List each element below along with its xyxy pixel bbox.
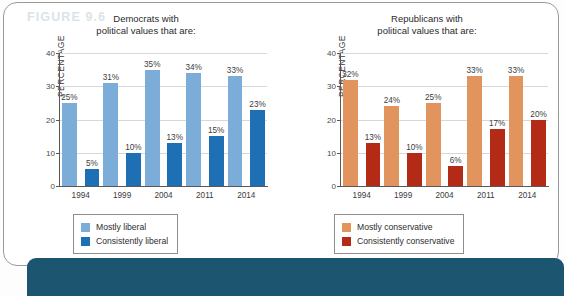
plot-area-republicans: PERCENTAGE 01020304032%13%199424%10%1999… bbox=[341, 53, 548, 186]
bar-value-label: 33% bbox=[466, 66, 482, 75]
bar-value-label: 6% bbox=[450, 156, 462, 165]
x-axis-tick-1999: 1999 bbox=[113, 191, 131, 200]
bar-value-label: 10% bbox=[406, 143, 422, 152]
bar-republicans-1994-consistently[interactable]: 13% bbox=[366, 143, 381, 186]
legend-swatch-mostly-conservative bbox=[342, 223, 351, 232]
bar-group: 31%10%1999 bbox=[101, 53, 142, 186]
bar-value-label: 13% bbox=[365, 133, 381, 142]
legend-item: Consistently liberal bbox=[81, 234, 168, 248]
bar-group: 32%13%1994 bbox=[341, 53, 382, 186]
bar-value-label: 20% bbox=[530, 110, 546, 119]
chart-title-line1: Democrats with bbox=[113, 13, 178, 24]
plot-area-democrats: PERCENTAGE 01020304025%5%199431%10%19993… bbox=[60, 53, 267, 186]
bar-group: 25%6%2004 bbox=[424, 53, 465, 186]
bar-value-label: 13% bbox=[167, 133, 183, 142]
bar-value-label: 5% bbox=[86, 159, 98, 168]
bar-democrats-2014-consistently[interactable]: 23% bbox=[250, 110, 265, 186]
bar-value-label: 24% bbox=[384, 96, 400, 105]
y-axis-tick: 0 bbox=[51, 182, 55, 191]
figure-card: Democrats with political values that are… bbox=[3, 2, 559, 266]
bar-group: 25%5%1994 bbox=[60, 53, 101, 186]
figure-banner bbox=[27, 258, 564, 296]
bar-value-label: 31% bbox=[103, 73, 119, 82]
x-axis-tick-2014: 2014 bbox=[518, 191, 536, 200]
chart-panel-republicans: Republicans with political values that a… bbox=[288, 9, 564, 261]
bar-value-label: 10% bbox=[125, 143, 141, 152]
bar-democrats-1999-mostly[interactable]: 31% bbox=[103, 83, 118, 186]
bar-group: 24%10%1999 bbox=[382, 53, 423, 186]
y-axis-line bbox=[340, 53, 341, 186]
bar-value-label: 35% bbox=[144, 60, 160, 69]
chart-title-line2: political values that are: bbox=[7, 25, 285, 37]
bar-value-label: 25% bbox=[425, 93, 441, 102]
bar-democrats-2014-mostly[interactable]: 33% bbox=[228, 76, 243, 186]
y-axis-tick: 30 bbox=[327, 82, 336, 91]
x-axis-tick-1999: 1999 bbox=[394, 191, 412, 200]
y-axis-tick: 40 bbox=[46, 49, 55, 58]
chart-title-republicans: Republicans with political values that a… bbox=[288, 13, 564, 37]
y-axis-tick: 10 bbox=[46, 148, 55, 157]
bar-value-label: 33% bbox=[508, 66, 524, 75]
bar-value-label: 23% bbox=[249, 100, 265, 109]
x-axis-tick-2014: 2014 bbox=[237, 191, 255, 200]
bar-republicans-2014-consistently[interactable]: 20% bbox=[531, 120, 546, 187]
bar-value-label: 34% bbox=[185, 63, 201, 72]
bar-value-label: 17% bbox=[489, 119, 505, 128]
bar-democrats-2011-mostly[interactable]: 34% bbox=[186, 73, 201, 186]
y-axis-tick: 20 bbox=[46, 115, 55, 124]
bar-group: 34%15%2011 bbox=[184, 53, 225, 186]
legend-item: Mostly liberal bbox=[81, 220, 168, 234]
bar-republicans-1999-consistently[interactable]: 10% bbox=[407, 153, 422, 186]
y-axis-tick: 10 bbox=[327, 148, 336, 157]
bar-republicans-1999-mostly[interactable]: 24% bbox=[384, 106, 399, 186]
bar-republicans-2014-mostly[interactable]: 33% bbox=[509, 76, 524, 186]
bar-value-label: 32% bbox=[342, 70, 358, 79]
bar-group: 33%20%2014 bbox=[507, 53, 548, 186]
legend-democrats: Mostly liberal Consistently liberal bbox=[73, 214, 178, 254]
bar-democrats-1999-consistently[interactable]: 10% bbox=[126, 153, 141, 186]
bar-group: 35%13%2004 bbox=[143, 53, 184, 186]
legend-swatch-consistently-conservative bbox=[342, 237, 351, 246]
bar-democrats-2011-consistently[interactable]: 15% bbox=[209, 136, 224, 186]
x-axis-tick-2004: 2004 bbox=[435, 191, 453, 200]
bar-value-label: 25% bbox=[61, 93, 77, 102]
plot-inner-republicans: 01020304032%13%199424%10%199925%6%200433… bbox=[341, 53, 548, 186]
bar-group: 33%17%2011 bbox=[465, 53, 506, 186]
y-axis-tick: 20 bbox=[327, 115, 336, 124]
bar-republicans-2004-mostly[interactable]: 25% bbox=[426, 103, 441, 186]
legend-label: Consistently conservative bbox=[357, 236, 454, 246]
bar-group: 33%23%2014 bbox=[226, 53, 267, 186]
x-axis-tick-2004: 2004 bbox=[154, 191, 172, 200]
bar-democrats-2004-mostly[interactable]: 35% bbox=[145, 70, 160, 186]
legend-item: Mostly conservative bbox=[342, 220, 454, 234]
legend-swatch-mostly-liberal bbox=[81, 223, 90, 232]
x-axis-tick-1994: 1994 bbox=[353, 191, 371, 200]
bar-republicans-2011-mostly[interactable]: 33% bbox=[467, 76, 482, 186]
figure-root: Democrats with political values that are… bbox=[0, 0, 564, 296]
bar-democrats-2004-consistently[interactable]: 13% bbox=[167, 143, 182, 186]
x-axis-tick-2011: 2011 bbox=[477, 191, 495, 200]
y-axis-tick: 30 bbox=[46, 82, 55, 91]
legend-republicans: Mostly conservative Consistently conserv… bbox=[334, 214, 464, 254]
y-axis-tick: 0 bbox=[332, 182, 336, 191]
bar-republicans-1994-mostly[interactable]: 32% bbox=[343, 80, 358, 186]
plot-inner-democrats: 01020304025%5%199431%10%199935%13%200434… bbox=[60, 53, 267, 186]
bar-democrats-1994-mostly[interactable]: 25% bbox=[62, 103, 77, 186]
legend-item: Consistently conservative bbox=[342, 234, 454, 248]
y-axis-tick: 40 bbox=[327, 49, 336, 58]
chart-title-line2: political values that are: bbox=[288, 25, 564, 37]
x-axis-line bbox=[340, 186, 549, 187]
y-axis-line bbox=[59, 53, 60, 186]
x-axis-tick-2011: 2011 bbox=[196, 191, 214, 200]
legend-label: Consistently liberal bbox=[96, 236, 168, 246]
figure-label: FIGURE 9.6 bbox=[27, 10, 106, 24]
bar-republicans-2004-consistently[interactable]: 6% bbox=[448, 166, 463, 186]
bar-value-label: 33% bbox=[227, 66, 243, 75]
bar-value-label: 15% bbox=[208, 126, 224, 135]
bar-democrats-1994-consistently[interactable]: 5% bbox=[85, 169, 100, 186]
chart-panel-democrats: Democrats with political values that are… bbox=[7, 9, 285, 261]
legend-swatch-consistently-liberal bbox=[81, 237, 90, 246]
bar-republicans-2011-consistently[interactable]: 17% bbox=[490, 129, 505, 186]
legend-label: Mostly conservative bbox=[357, 222, 432, 232]
legend-label: Mostly liberal bbox=[96, 222, 146, 232]
